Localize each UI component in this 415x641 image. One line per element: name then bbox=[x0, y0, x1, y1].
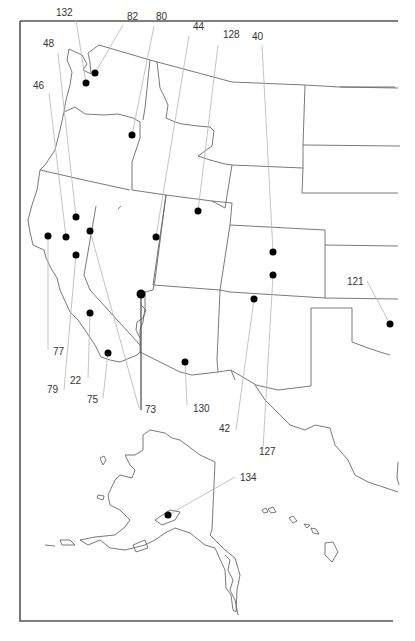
site-dot bbox=[87, 310, 94, 317]
leader-line bbox=[236, 299, 254, 430]
site-label: 82 bbox=[127, 11, 139, 22]
leader-line bbox=[103, 353, 108, 398]
leader-line bbox=[185, 362, 187, 405]
site-marker: 121 bbox=[347, 276, 394, 328]
leader-line bbox=[95, 25, 123, 73]
site-dot bbox=[45, 233, 52, 240]
site-marker: 132 bbox=[56, 7, 90, 87]
site-marker: 127 bbox=[259, 272, 277, 458]
site-marker: 42 bbox=[219, 296, 258, 435]
leader-line bbox=[76, 20, 86, 83]
site-label: 132 bbox=[56, 7, 73, 18]
leader-line bbox=[88, 313, 90, 378]
site-dot bbox=[153, 234, 160, 241]
alaska-outline bbox=[45, 430, 240, 615]
site-dot bbox=[251, 296, 258, 303]
state-borders bbox=[28, 45, 400, 492]
site-label: 46 bbox=[33, 80, 45, 91]
site-dot bbox=[83, 80, 90, 87]
leader-line bbox=[262, 45, 273, 252]
map-frame bbox=[20, 21, 398, 621]
leader-line bbox=[168, 477, 235, 515]
site-marker: 128 bbox=[195, 29, 241, 215]
site-dot bbox=[137, 290, 146, 299]
site-marker: 79 bbox=[47, 252, 80, 396]
site-dot bbox=[105, 350, 112, 357]
leader-line bbox=[90, 231, 139, 408]
site-markers: 1328280441284048467779227573130421271211… bbox=[33, 7, 394, 519]
site-label: 77 bbox=[53, 346, 65, 357]
site-marker: 73 bbox=[87, 228, 157, 416]
site-dot bbox=[165, 512, 172, 519]
site-marker: 46 bbox=[33, 80, 70, 241]
site-label: 22 bbox=[70, 375, 82, 386]
site-dot bbox=[270, 272, 277, 279]
lake-mark bbox=[118, 206, 121, 209]
site-dot bbox=[92, 70, 99, 77]
site-label: 130 bbox=[193, 403, 210, 414]
site-label: 121 bbox=[347, 276, 364, 287]
site-label: 44 bbox=[193, 21, 205, 32]
site-marker: 75 bbox=[87, 350, 112, 406]
site-label: 127 bbox=[259, 446, 276, 457]
site-dot bbox=[73, 252, 80, 259]
site-dot bbox=[63, 234, 70, 241]
leader-line bbox=[367, 281, 390, 324]
hawaii-outline bbox=[262, 507, 338, 562]
site-marker: 44 bbox=[153, 21, 205, 241]
leader-line bbox=[64, 255, 76, 390]
site-label: 134 bbox=[240, 472, 257, 483]
site-marker: 48 bbox=[43, 38, 80, 221]
site-dot bbox=[129, 132, 136, 139]
leader-line bbox=[263, 275, 273, 449]
site-map: 1328280441284048467779227573130421271211… bbox=[0, 0, 415, 641]
site-dot bbox=[270, 249, 277, 256]
site-dot bbox=[387, 321, 394, 328]
site-marker: 77 bbox=[45, 233, 65, 358]
site-label: 73 bbox=[145, 404, 157, 415]
site-label: 48 bbox=[43, 38, 55, 49]
site-label: 128 bbox=[223, 29, 240, 40]
site-marker: 130 bbox=[182, 359, 211, 415]
site-marker: 22 bbox=[70, 310, 94, 387]
site-label: 80 bbox=[156, 11, 168, 22]
site-dot bbox=[182, 359, 189, 366]
site-label: 42 bbox=[219, 423, 231, 434]
site-dot bbox=[195, 208, 202, 215]
site-dot bbox=[87, 228, 94, 235]
site-label: 75 bbox=[87, 394, 99, 405]
site-label: 40 bbox=[252, 31, 264, 42]
site-marker: 40 bbox=[252, 31, 277, 256]
site-dot bbox=[73, 214, 80, 221]
site-label: 79 bbox=[47, 384, 59, 395]
leader-line bbox=[198, 45, 218, 211]
